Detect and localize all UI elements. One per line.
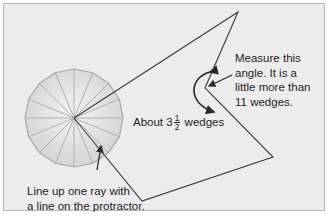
about-prefix: About 3: [133, 116, 173, 128]
about-suffix: wedges: [185, 116, 225, 128]
vertex-pointer-arrow: [209, 75, 232, 86]
lineup-label-line1: Line up one ray with: [27, 184, 145, 199]
angle-arc-arrow: [194, 72, 214, 112]
measure-label-line3: little more than: [235, 80, 310, 95]
measure-label-line2: angle. It is a: [235, 66, 310, 81]
lineup-label-line2: a line on the protractor.: [27, 199, 145, 214]
measure-angle-label: Measure this angle. It is a little more …: [235, 51, 310, 109]
measure-label-line4: 11 wedges.: [235, 95, 310, 110]
fraction-one-half: 12: [174, 114, 181, 131]
about-wedges-label: About 312 wedges: [133, 114, 224, 131]
measure-label-line1: Measure this: [235, 51, 310, 66]
line-up-ray-label: Line up one ray with a line on the protr…: [27, 184, 145, 213]
